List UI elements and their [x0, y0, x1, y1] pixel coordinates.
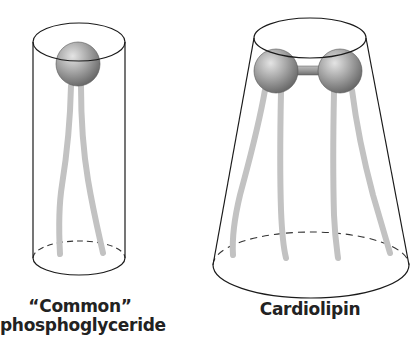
label-line-1: “Common”: [0, 297, 160, 316]
cone-bottom-back-dashed: [213, 232, 409, 265]
fatty-acid-tail-3: [333, 92, 338, 258]
fatty-acid-tail-4: [352, 90, 390, 253]
cone-top-ellipse: [254, 18, 366, 58]
cardiolipin-label: Cardiolipin: [215, 300, 405, 319]
label-line-1: Cardiolipin: [215, 300, 405, 319]
cone-right-side: [366, 38, 409, 265]
label-line-2: phosphoglyceride: [0, 316, 160, 335]
cylinder-bottom-front: [33, 258, 125, 275]
fatty-acid-tail-2: [280, 92, 286, 258]
common-phosphoglyceride-label: “Common” phosphoglyceride: [0, 297, 160, 335]
common-phosphoglyceride-cylinder: [33, 23, 125, 275]
cone-bottom-front: [213, 265, 409, 298]
polar-head-sphere: [56, 42, 100, 86]
polar-head-sphere-right: [318, 49, 362, 93]
cardiolipin-cone: [213, 18, 409, 298]
cylinder-bottom-back-dashed: [33, 241, 125, 258]
polar-head-sphere-left: [254, 49, 298, 93]
fatty-acid-tail-1: [233, 90, 265, 255]
fatty-acid-tail-1: [59, 86, 71, 254]
fatty-acid-tail-2: [81, 86, 103, 253]
